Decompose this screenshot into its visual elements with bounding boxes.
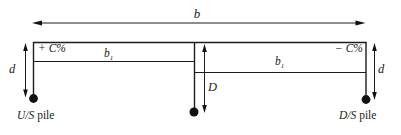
left-depth-label: d	[9, 63, 15, 76]
D-arrowhead-up	[202, 44, 207, 52]
diagram-lines	[26, 23, 375, 108]
overall-width-label: b	[194, 7, 201, 20]
diagram-fills	[23, 20, 377, 116]
left-correction-label: + C%	[38, 43, 66, 55]
D-arrowhead-down	[202, 105, 207, 113]
d-left-arrowhead-up	[23, 43, 28, 51]
b-arrowhead-right	[356, 20, 366, 25]
right-b1-label: b1	[275, 56, 284, 68]
d-right-arrowhead-up	[372, 43, 377, 51]
right-correction-label: − C%	[335, 43, 363, 55]
d-left-arrowhead-down	[23, 90, 28, 98]
d-right-arrowhead-down	[372, 92, 377, 100]
upstream-pile-caption: U/S pile	[17, 110, 54, 122]
upstream-pile-tip	[29, 94, 38, 103]
left-b1-label: b1	[104, 48, 113, 60]
pile-foundation-diagram: b + C% − C% b1 b1 d d D U/S pile D/S pil…	[0, 0, 401, 135]
middle-depth-label: D	[208, 81, 217, 94]
downstream-pile-tip	[362, 95, 371, 104]
intermediate-pile-tip	[190, 108, 199, 117]
right-depth-label: d	[378, 63, 384, 76]
downstream-pile-caption: D/S pile	[339, 110, 376, 122]
b-arrowhead-left	[32, 20, 42, 25]
